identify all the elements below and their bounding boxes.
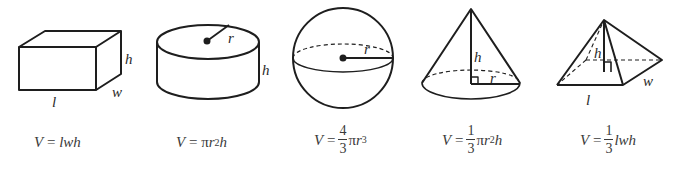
- formula-lhs: V: [314, 132, 323, 149]
- pi-symbol: π: [348, 132, 356, 149]
- formula-tail: h: [495, 132, 503, 149]
- formula-tail: h: [220, 134, 228, 151]
- pyramid-height-label: h: [594, 45, 602, 61]
- fraction-numerator: 1: [466, 124, 475, 140]
- formula-var: r: [209, 134, 215, 151]
- fraction-numerator: 4: [338, 124, 347, 140]
- formula-tail: lwh: [614, 132, 636, 149]
- formula-equals: =: [327, 132, 335, 149]
- formula-lhs: V: [34, 134, 43, 151]
- prism-width-label: w: [112, 84, 122, 100]
- formula-var: r: [356, 132, 362, 149]
- formula-equals: =: [593, 132, 601, 149]
- cylinder-radius-label: r: [228, 30, 234, 46]
- pi-symbol: π: [201, 134, 209, 151]
- cylinder-shape: [157, 25, 259, 99]
- fraction-denominator: 3: [605, 140, 612, 156]
- prism-volume-formula: V = lwh: [34, 134, 81, 151]
- prism-length-label: l: [52, 94, 56, 110]
- prism-height-label: h: [125, 51, 133, 67]
- cone-radius-label: r: [490, 70, 496, 86]
- formula-lhs: V: [442, 132, 451, 149]
- formula-equals: =: [455, 132, 463, 149]
- formula-equals: =: [189, 134, 197, 151]
- cylinder-height-label: h: [262, 62, 270, 78]
- formula-equals: =: [47, 134, 55, 151]
- cone-volume-formula: V = 1 3 πr2h: [442, 124, 502, 156]
- fraction: 1 3: [604, 124, 613, 156]
- fraction-denominator: 3: [339, 140, 346, 156]
- fraction: 4 3: [338, 124, 347, 156]
- cylinder-volume-formula: V = πr2h: [176, 134, 227, 151]
- formula-var: r: [484, 132, 490, 149]
- fraction-denominator: 3: [467, 140, 474, 156]
- rectangular-prism-shape: [19, 31, 121, 90]
- fraction: 1 3: [466, 124, 475, 156]
- sphere-shape: [293, 8, 393, 108]
- formula-lhs: V: [176, 134, 185, 151]
- formula-rhs: lwh: [59, 134, 81, 151]
- cone-shape: [422, 9, 520, 99]
- fraction-numerator: 1: [604, 124, 613, 140]
- pyramid-volume-formula: V = 1 3 lwh: [580, 124, 636, 156]
- sphere-radius-label: r: [364, 41, 370, 57]
- pyramid-width-label: w: [643, 73, 653, 89]
- sphere-volume-formula: V = 4 3 πr3: [314, 124, 367, 156]
- formula-lhs: V: [580, 132, 589, 149]
- pi-symbol: π: [476, 132, 484, 149]
- pyramid-length-label: l: [586, 92, 590, 108]
- cone-height-label: h: [474, 49, 482, 65]
